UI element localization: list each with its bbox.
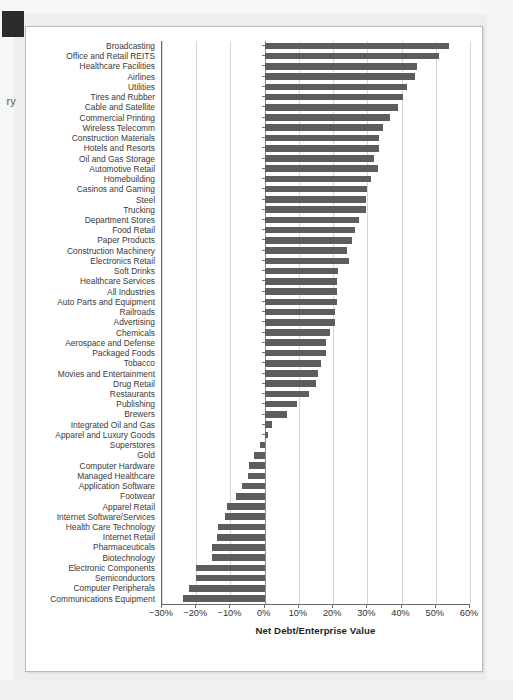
- y-axis-label: Wireless Telecomm: [26, 123, 159, 133]
- y-axis-label: Semiconductors: [26, 573, 159, 583]
- bar: [260, 442, 265, 449]
- y-axis-label: Commercial Printing: [26, 113, 159, 123]
- chart-row: [162, 563, 470, 573]
- y-axis-label: Internet Software/Services: [26, 512, 159, 522]
- bar: [225, 513, 264, 520]
- chart-row: [162, 317, 470, 327]
- bar: [265, 135, 380, 142]
- bar: [265, 227, 356, 234]
- chart-row: [162, 461, 470, 471]
- bar: [265, 196, 366, 203]
- chart-row: [162, 471, 470, 481]
- y-axis-label: Steel: [26, 195, 159, 205]
- bar: [265, 319, 335, 326]
- chart-row: [162, 246, 470, 256]
- chart-row: [162, 399, 470, 409]
- chart-row: [162, 584, 470, 594]
- bar: [265, 186, 368, 193]
- chart-row: [162, 481, 470, 491]
- y-axis-label: Healthcare Services: [26, 276, 159, 286]
- x-axis-tick-label: 40%: [391, 608, 409, 618]
- bar: [227, 503, 265, 510]
- chart-row: [162, 61, 470, 71]
- y-axis-label: Department Stores: [26, 215, 159, 225]
- bar: [265, 155, 375, 162]
- chart-row: [162, 328, 470, 338]
- bar: [212, 544, 265, 551]
- y-axis-label: Electronics Retail: [26, 256, 159, 266]
- chart-row: [162, 358, 470, 368]
- gridline: [470, 41, 471, 604]
- bar: [248, 473, 265, 480]
- y-axis-label: Pharmaceuticals: [26, 542, 159, 552]
- y-axis-category-labels: BroadcastingOffice and Retail REITSHealt…: [26, 41, 159, 604]
- bar: [265, 268, 339, 275]
- chart-row: [162, 256, 470, 266]
- y-axis-label: Healthcare Facilities: [26, 61, 159, 71]
- y-axis-label: Footwear: [26, 491, 159, 501]
- y-axis-label: Communications Equipment: [26, 594, 159, 604]
- y-axis-label: Automotive Retail: [26, 164, 159, 174]
- bar: [265, 124, 383, 131]
- chart-row: [162, 440, 470, 450]
- bar: [265, 391, 309, 398]
- bar: [265, 165, 378, 172]
- bar: [218, 524, 264, 531]
- x-axis-tick-label: 30%: [357, 608, 375, 618]
- bar: [265, 206, 366, 213]
- bar: [265, 53, 440, 60]
- chart-row: [162, 287, 470, 297]
- chart-row: [162, 133, 470, 143]
- chart-row: [162, 174, 470, 184]
- x-axis-tick-label: −30%: [149, 608, 173, 618]
- y-axis-label: All Industries: [26, 287, 159, 297]
- chart-row: [162, 522, 470, 532]
- chart-row: [162, 205, 470, 215]
- bar: [265, 288, 337, 295]
- y-axis-label: Chemicals: [26, 328, 159, 338]
- chart-row: [162, 594, 470, 604]
- chart-row: [162, 379, 470, 389]
- bar: [183, 595, 265, 602]
- page-band-bottom: [0, 680, 513, 700]
- bar: [242, 483, 264, 490]
- bar: [249, 462, 264, 469]
- chart-row: [162, 41, 470, 51]
- bar: [265, 309, 335, 316]
- bar: [265, 247, 347, 254]
- x-axis-tick-label: −20%: [183, 608, 207, 618]
- y-axis-label: Broadcasting: [26, 41, 159, 51]
- chart-row: [162, 195, 470, 205]
- y-axis-label: Internet Retail: [26, 532, 159, 542]
- chart-row: [162, 502, 470, 512]
- y-axis-label: Computer Peripherals: [26, 583, 159, 593]
- x-axis-tick-label: 50%: [426, 608, 444, 618]
- x-axis-line: [161, 604, 470, 605]
- y-axis-label: Construction Materials: [26, 133, 159, 143]
- bar: [265, 432, 268, 439]
- chart-figure: BroadcastingOffice and Retail REITSHealt…: [25, 26, 483, 672]
- y-axis-label: Trucking: [26, 205, 159, 215]
- y-axis-label: Managed Healthcare: [26, 471, 159, 481]
- y-axis-label: Food Retail: [26, 225, 159, 235]
- y-axis-label: Aerospace and Defense: [26, 338, 159, 348]
- chart-row: [162, 491, 470, 501]
- chart-row: [162, 573, 470, 583]
- page-band-top: [0, 0, 513, 14]
- chart-row: [162, 389, 470, 399]
- chart-row: [162, 543, 470, 553]
- y-axis-label: Hotels and Resorts: [26, 143, 159, 153]
- bar: [265, 84, 407, 91]
- bar: [265, 360, 321, 367]
- chart-row: [162, 276, 470, 286]
- chart-row: [162, 430, 470, 440]
- bar: [265, 401, 298, 408]
- bar: [265, 278, 337, 285]
- bar: [212, 554, 265, 561]
- y-axis-label: Tires and Rubber: [26, 92, 159, 102]
- y-axis-label: Casinos and Gaming: [26, 184, 159, 194]
- plot-wrapper: BroadcastingOffice and Retail REITSHealt…: [26, 27, 484, 673]
- chart-row: [162, 225, 470, 235]
- chart-row: [162, 82, 470, 92]
- y-axis-label: Computer Hardware: [26, 461, 159, 471]
